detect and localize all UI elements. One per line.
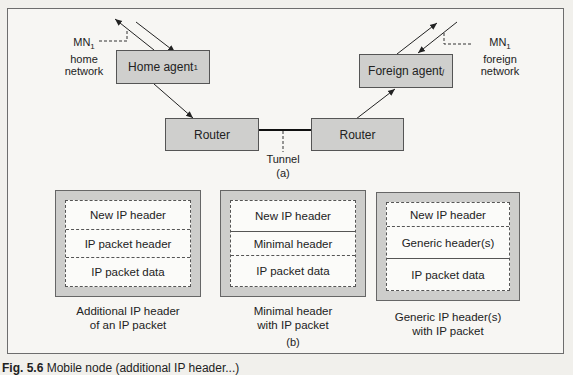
- packet-row: New IP header: [66, 201, 190, 229]
- home-agent-box: Home agent1: [116, 50, 210, 84]
- packet-minimal-header: New IP header Minimal header IP packet d…: [220, 190, 366, 297]
- packet-row: IP packet data: [387, 258, 509, 290]
- packet-inner: New IP header Generic header(s) IP packe…: [386, 202, 510, 291]
- foreign-agent-box: Foreign agentj: [359, 54, 453, 88]
- router-left-box: Router: [165, 118, 259, 151]
- packet-row: IP packet header: [66, 229, 190, 258]
- packet-caption: Additional IP header of an IP packet: [55, 304, 201, 332]
- packet-row: IP packet data: [66, 257, 190, 286]
- packet-caption: Generic IP header(s) with IP packet: [376, 310, 520, 338]
- router-right-box: Router: [311, 118, 404, 151]
- part-a-label: (a): [268, 167, 298, 179]
- packet-row: Generic header(s): [387, 226, 509, 258]
- mn-foreign-network-label: MN1 foreign network: [472, 36, 528, 77]
- mn-home-network-label: MN1 home network: [64, 36, 104, 77]
- tunnel-label: Tunnel: [258, 153, 308, 165]
- packet-generic-header: New IP header Generic header(s) IP packe…: [376, 192, 520, 301]
- packet-additional-ip-header: New IP header IP packet header IP packet…: [55, 190, 201, 297]
- packet-inner: New IP header IP packet header IP packet…: [65, 200, 191, 287]
- packet-caption: Minimal header with IP packet: [220, 304, 366, 332]
- packet-row: Minimal header: [231, 231, 355, 255]
- packet-row: New IP header: [387, 203, 509, 226]
- part-b-label: (b): [278, 336, 308, 348]
- figure-caption: Fig. 5.6 Mobile node (additional IP head…: [2, 361, 239, 375]
- packet-row: New IP header: [231, 201, 355, 231]
- packet-inner: New IP header Minimal header IP packet d…: [230, 200, 356, 287]
- packet-row: IP packet data: [231, 255, 355, 286]
